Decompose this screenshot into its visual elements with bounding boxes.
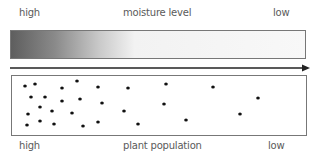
plant-dot — [38, 120, 42, 123]
plant-dot — [96, 86, 100, 89]
plant-dot — [43, 96, 47, 99]
plant-dot — [78, 98, 82, 101]
plant-dot — [60, 100, 64, 103]
plant-dot — [164, 83, 168, 86]
plant-dot — [184, 119, 188, 122]
plant-dot — [100, 102, 104, 105]
plant-dot — [29, 96, 33, 99]
plant-dots — [0, 0, 316, 163]
plant-dot — [50, 110, 54, 113]
population-low-label: low — [268, 140, 284, 151]
plant-dot — [126, 87, 130, 90]
plant-dot — [33, 83, 37, 86]
plant-dot — [75, 80, 79, 83]
plant-dot — [211, 86, 215, 89]
plant-dot — [122, 110, 126, 113]
plant-dot — [256, 97, 260, 100]
plant-dot — [136, 123, 140, 126]
plant-dot — [81, 125, 85, 128]
plant-dot — [70, 112, 74, 115]
plant-dot — [96, 121, 100, 124]
plant-dot — [162, 103, 166, 106]
plant-dot — [26, 113, 30, 116]
plant-population-title: plant population — [123, 140, 202, 151]
population-high-label: high — [19, 140, 40, 151]
plant-dot — [60, 87, 64, 90]
plant-dot — [25, 124, 29, 127]
plant-dot — [52, 123, 56, 126]
plant-dot — [38, 106, 42, 109]
plant-dot — [23, 85, 27, 88]
plant-dot — [238, 113, 242, 116]
